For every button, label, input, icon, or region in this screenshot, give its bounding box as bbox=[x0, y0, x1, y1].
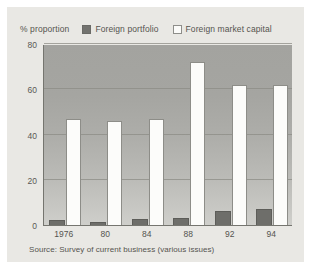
legend-label-foreign-market-capital: Foreign market capital bbox=[186, 24, 272, 34]
plot-wrapper: 02040608019768084889294 bbox=[43, 45, 292, 226]
legend-label-foreign-portfolio: Foreign portfolio bbox=[95, 24, 158, 34]
y-axis-title: % proportion bbox=[20, 24, 69, 34]
x-axis-tick-label: 88 bbox=[184, 229, 193, 239]
chart-figure: % proportion Foreign portfolio Foreign m… bbox=[7, 7, 304, 262]
bar-foreign-market-capital bbox=[232, 85, 247, 225]
gridline bbox=[44, 179, 292, 180]
bar-foreign-portfolio bbox=[49, 220, 65, 225]
legend-entry-foreign-market-capital: Foreign market capital bbox=[173, 24, 286, 34]
x-axis-tick-label: 94 bbox=[267, 229, 276, 239]
bar-foreign-market-capital bbox=[66, 119, 81, 225]
x-axis-tick-label: 1976 bbox=[54, 229, 73, 239]
legend-light-swatch-icon bbox=[173, 25, 182, 34]
bar-foreign-portfolio bbox=[173, 218, 189, 225]
x-axis-tick-label: 84 bbox=[142, 229, 151, 239]
bar-foreign-portfolio bbox=[256, 209, 272, 225]
bar-foreign-portfolio bbox=[132, 219, 148, 225]
bar-foreign-market-capital bbox=[107, 121, 122, 225]
legend-entry-foreign-portfolio: Foreign portfolio bbox=[82, 24, 172, 34]
bar-foreign-portfolio bbox=[90, 222, 106, 225]
y-axis-tick-label: 60 bbox=[11, 85, 37, 95]
bar-foreign-portfolio bbox=[215, 211, 231, 225]
legend-dark-swatch-icon bbox=[82, 25, 91, 34]
x-axis-tick-label: 92 bbox=[225, 229, 234, 239]
chart-legend: % proportion Foreign portfolio Foreign m… bbox=[7, 22, 304, 36]
source-note: Source: Survey of current business (vari… bbox=[29, 245, 214, 254]
x-axis-tick-label: 80 bbox=[101, 229, 110, 239]
bar-foreign-market-capital bbox=[190, 62, 205, 225]
gridline bbox=[44, 88, 292, 89]
bar-foreign-market-capital bbox=[273, 85, 288, 225]
y-axis-tick-label: 80 bbox=[11, 40, 37, 50]
gridline bbox=[44, 43, 292, 44]
y-axis-tick-label: 20 bbox=[11, 176, 37, 186]
gridline bbox=[44, 134, 292, 135]
bar-foreign-market-capital bbox=[149, 119, 164, 225]
y-axis-tick-label: 0 bbox=[11, 221, 37, 231]
y-axis-tick-label: 40 bbox=[11, 131, 37, 141]
plot-area bbox=[43, 45, 292, 226]
